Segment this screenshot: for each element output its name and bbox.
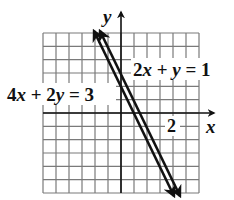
equation-label-4x-plus-2y-eq-3: 4x + 2y = 3: [7, 84, 94, 105]
equation-label-2x-plus-y-eq-1: 2x + y = 1: [133, 59, 211, 80]
y-axis-label: y: [101, 6, 112, 27]
x-axis-label: x: [205, 116, 216, 137]
tick-label-x-2: 2: [167, 116, 176, 136]
coordinate-plane: y x 2 2x + y = 1 4x + 2y = 3: [0, 0, 234, 200]
